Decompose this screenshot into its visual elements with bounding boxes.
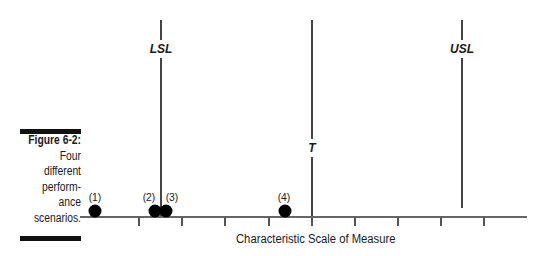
caption-line: ance [11,195,81,211]
caption-bottom-rule [20,236,81,241]
caption-line: scenarios. [11,211,81,227]
axis-tick [224,217,226,226]
lsl-label: LSL [150,40,173,58]
data-point-4 [279,205,292,218]
target-label: T [308,139,315,157]
point-label-2: (2) [143,191,156,203]
figure-caption: Figure 6-2: Four different perform- ance… [11,133,81,226]
data-point-3 [160,205,173,218]
axis-tick [354,217,356,226]
x-axis-label: Characteristic Scale of Measure [236,232,395,246]
axis-tick [440,217,442,226]
axis-tick [181,217,183,226]
caption-line: Four [11,149,81,165]
axis-tick [311,217,313,226]
figure-label: Figure 6-2: [11,133,81,149]
data-point-1 [89,205,102,218]
target-line [311,20,313,216]
x-axis [80,216,527,218]
usl-label: USL [450,40,474,58]
axis-tick [483,217,485,226]
point-label-3: (3) [166,191,179,203]
caption-line: perform- [11,180,81,196]
point-label-1: (1) [89,191,102,203]
axis-tick [268,217,270,226]
axis-tick [397,217,399,226]
caption-line: different [11,164,81,180]
point-label-4: (4) [278,191,291,203]
axis-tick [138,217,140,226]
